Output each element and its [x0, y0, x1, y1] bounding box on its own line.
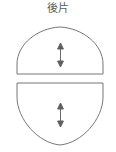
pattern-diagram: 後片 — [0, 0, 116, 152]
pattern-svg-canvas — [0, 0, 116, 152]
